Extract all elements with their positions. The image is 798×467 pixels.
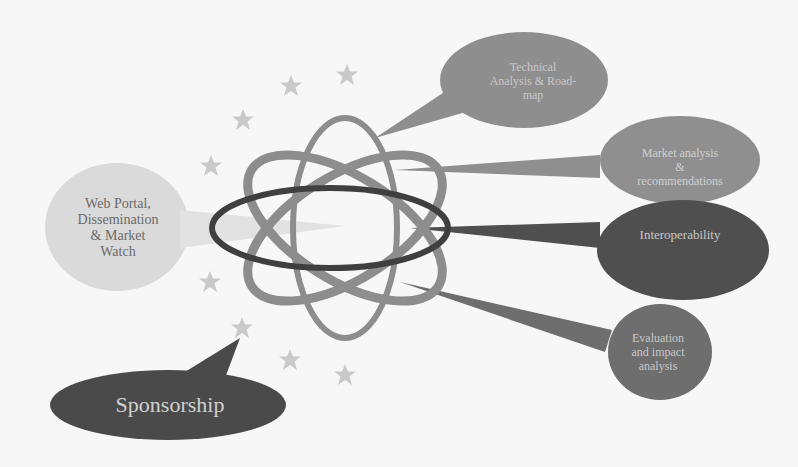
callout-evaluation: Evaluation and impact analysis [612, 322, 704, 384]
callout-web-portal-label: Web Portal, Dissemination & Market Watch [78, 196, 159, 260]
callout-interop-label: Interoperability [640, 228, 721, 243]
callout-web-portal: Web Portal, Dissemination & Market Watch [58, 178, 178, 278]
star-icon [200, 155, 222, 176]
star-icon [232, 109, 254, 130]
star-icon [279, 349, 301, 370]
star-icon [336, 64, 358, 85]
callout-market-label: Market analysis & recommendations [637, 147, 722, 188]
callout-evaluation-label: Evaluation and impact analysis [632, 332, 685, 373]
callout-sponsorship: Sponsorship [70, 380, 270, 430]
callout-interop-shape [410, 200, 769, 300]
star-icon [334, 364, 356, 385]
diagram-canvas: Web Portal, Dissemination & Market Watch… [0, 0, 798, 467]
callout-sponsorship-label: Sponsorship [116, 392, 225, 417]
star-icon [280, 75, 302, 96]
callout-interop: Interoperability [610, 220, 750, 250]
callout-technical: Technical Analysis & Road- map [478, 52, 588, 112]
callout-technical-label: Technical Analysis & Road- map [490, 61, 577, 102]
callout-market: Market analysis & recommendations [610, 138, 750, 198]
star-icon [199, 271, 221, 292]
star-icon [231, 317, 253, 338]
